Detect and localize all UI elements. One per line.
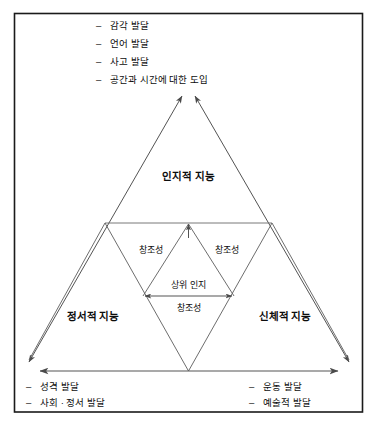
top-list-item-3: 공간과 시간에 대한 도입 — [110, 74, 208, 85]
bottom-right-item-0-bullet: – — [249, 381, 255, 392]
node-label-emotional: 정서적 지능 — [67, 310, 120, 322]
intelligence-triangle-diagram: – 감각 발달 – 언어 발달 – 사고 발달 – 공간과 시간에 대한 도입 … — [0, 0, 377, 430]
top-list-item-1-bullet: – — [96, 38, 102, 49]
top-list-item-2: 사고 발달 — [110, 56, 149, 67]
bottom-left-item-1: 사회 · 정서 발달 — [40, 397, 105, 408]
top-list-item-2-bullet: – — [96, 56, 102, 67]
bottom-right-item-0: 운동 발달 — [263, 381, 302, 392]
label-creativity-bottom: 창조성 — [177, 303, 201, 313]
label-creativity-left: 창조성 — [139, 245, 163, 255]
top-list-item-0-bullet: – — [96, 20, 102, 31]
top-list-item-1: 언어 발달 — [110, 38, 149, 49]
top-list-item-3-bullet: – — [96, 74, 102, 85]
bottom-left-item-0: 성격 발달 — [40, 381, 79, 392]
label-metacognition: 상위 인지 — [171, 280, 206, 290]
bottom-right-item-1: 예술적 발달 — [263, 397, 311, 408]
bottom-left-item-0-bullet: – — [26, 381, 32, 392]
node-label-physical: 신체적 지능 — [259, 310, 312, 322]
top-list-item-0: 감각 발달 — [110, 20, 149, 31]
bottom-right-item-1-bullet: – — [249, 397, 255, 408]
figure-root: – 감각 발달 – 언어 발달 – 사고 발달 – 공간과 시간에 대한 도입 … — [0, 0, 377, 430]
node-label-cognitive: 인지적 지능 — [162, 170, 215, 182]
label-creativity-right: 창조성 — [215, 245, 239, 255]
bottom-left-item-1-bullet: – — [26, 397, 32, 408]
